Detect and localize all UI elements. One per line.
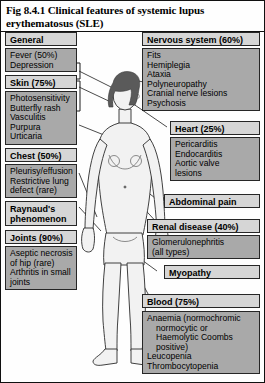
- section-content-joints: Aseptic necrosis of hip (rare) Arthritis…: [5, 246, 77, 290]
- section-header-renal-disease: Renal disease (40%): [147, 219, 260, 233]
- section-header-joints: Joints (90%): [5, 230, 77, 244]
- section-content-nervous-system: Fits Hemiplegia Ataxia Polyneuropathy Cr…: [142, 48, 260, 111]
- section-header-chest: Chest (50%): [5, 148, 77, 162]
- section-header-skin: Skin (75%): [5, 75, 77, 89]
- section-content-heart: Pericarditis Endocarditis Aortic valve l…: [170, 137, 260, 181]
- section-content-skin: Photosensitivity Butterfly rash Vasculit…: [5, 91, 77, 145]
- section-header-heart: Heart (25%): [170, 121, 260, 135]
- figure-title: Fig 8.4.1 Clinical features of systemic …: [1, 1, 265, 32]
- section-header-myopathy: Myopathy: [164, 265, 260, 279]
- section-header-blood: Blood (75%): [142, 294, 260, 308]
- section-header-general: General: [5, 32, 77, 46]
- section-header-nervous-system: Nervous system (60%): [142, 32, 260, 46]
- section-header-abdominal-pain: Abdominal pain: [164, 194, 260, 208]
- figure-canvas: General Fever (50%) Depression Skin (75%…: [1, 31, 265, 383]
- section-content-blood: Anaemia (normochromic normocytic or Haem…: [142, 311, 260, 374]
- section-header-raynauds: Raynaud's phenomenon: [5, 201, 77, 226]
- section-content-renal-disease: Glomerulonephritis (all types): [147, 235, 260, 259]
- figure-panel: Fig 8.4.1 Clinical features of systemic …: [0, 0, 265, 383]
- section-content-general: Fever (50%) Depression: [5, 48, 77, 72]
- section-content-chest: Pleurisy/effusion Restrictive lung defec…: [5, 164, 77, 198]
